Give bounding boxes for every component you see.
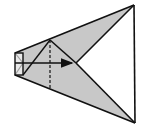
- folding-diagram: [0, 0, 146, 130]
- left-rectangle: [15, 53, 23, 75]
- right-vertical-edge: [134, 5, 135, 123]
